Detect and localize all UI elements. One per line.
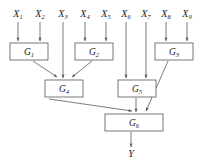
edge-g4-to-g6 bbox=[49, 99, 132, 111]
input-label-x6: X6 bbox=[120, 8, 131, 20]
input-label-text: X5 bbox=[100, 8, 111, 20]
input-label-x7: X7 bbox=[140, 8, 151, 20]
input-label-x5: X5 bbox=[100, 8, 111, 20]
edge-g2-to-g4 bbox=[72, 61, 92, 77]
boxes-layer bbox=[10, 43, 193, 131]
input-label-text: X1 bbox=[12, 8, 22, 20]
input-label-text: X9 bbox=[181, 8, 192, 20]
input-label-text: X6 bbox=[120, 8, 131, 20]
edge-g1-to-g4 bbox=[33, 61, 57, 77]
input-label-x4: X4 bbox=[79, 8, 90, 20]
input-label-x3: X3 bbox=[57, 8, 68, 20]
input-label-text: X2 bbox=[34, 8, 45, 20]
input-label-text: X8 bbox=[160, 8, 171, 20]
input-label-x8: X8 bbox=[160, 8, 171, 20]
output-label-y: Y bbox=[128, 148, 135, 159]
input-label-text: X3 bbox=[57, 8, 68, 20]
input-label-x1: X1 bbox=[12, 8, 22, 20]
input-label-x9: X9 bbox=[181, 8, 192, 20]
input-label-text: X4 bbox=[79, 8, 90, 20]
labels-layer: X1X2X3X4X5X6X7X8X9G1G2G3G4G5G6Y bbox=[12, 8, 192, 159]
diagram-svg: X1X2X3X4X5X6X7X8X9G1G2G3G4G5G6Y bbox=[0, 0, 208, 162]
diagram-canvas: X1X2X3X4X5X6X7X8X9G1G2G3G4G5G6Y bbox=[0, 0, 208, 162]
input-label-text: X7 bbox=[140, 8, 151, 20]
input-label-x2: X2 bbox=[34, 8, 45, 20]
